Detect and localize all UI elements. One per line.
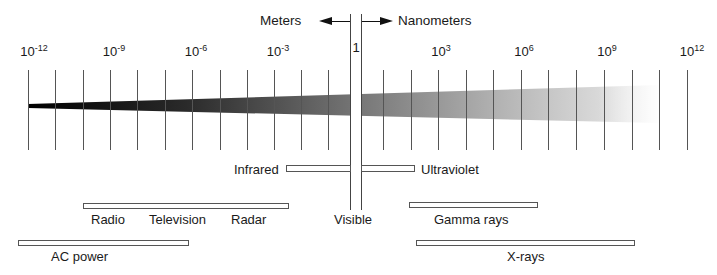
tick <box>274 70 275 150</box>
ultraviolet-label: Ultraviolet <box>421 163 479 176</box>
tick-label: 10-12 <box>20 44 47 58</box>
tick-label: 1 <box>352 41 359 54</box>
tick <box>548 70 549 150</box>
tick <box>687 70 688 150</box>
x-rays-label: X-rays <box>507 250 545 263</box>
tick <box>247 70 248 150</box>
center-gap <box>351 60 361 210</box>
center-line-right <box>361 14 362 210</box>
tick <box>83 70 84 150</box>
ultraviolet-bar <box>361 165 415 172</box>
tick <box>192 70 193 150</box>
tick <box>220 70 221 150</box>
tick <box>28 70 29 150</box>
visible-label: Visible <box>334 213 372 226</box>
tick <box>328 70 329 150</box>
nanometers-label: Nanometers <box>398 14 472 28</box>
tick-label: 106 <box>514 44 533 58</box>
tick-label: 1012 <box>680 44 704 58</box>
radar-label: Radar <box>231 213 266 226</box>
nanometers-arrow-line <box>362 21 381 22</box>
tick-label: 109 <box>597 44 616 58</box>
tick <box>521 70 522 150</box>
tick <box>110 70 111 150</box>
tick <box>165 70 166 150</box>
center-line-left <box>350 14 351 210</box>
gamma-rays-label: Gamma rays <box>434 213 508 226</box>
meters-arrow-line <box>331 21 350 22</box>
tick-label: 10-3 <box>267 44 289 58</box>
tick <box>411 70 412 150</box>
tick-label: 10-6 <box>185 44 207 58</box>
arrow-right-icon <box>380 17 393 25</box>
tick <box>301 70 302 150</box>
tick <box>632 70 633 150</box>
infrared-bar <box>286 165 351 172</box>
tick <box>604 70 605 150</box>
gamma-rays-bar <box>409 202 538 208</box>
tick-label: 103 <box>431 44 450 58</box>
television-label: Television <box>149 213 206 226</box>
spectrum-diagram: Meters Nanometers 10-12 10-9 10-6 10-3 1… <box>0 0 717 275</box>
tick <box>576 70 577 150</box>
arrow-left-icon <box>319 17 332 25</box>
tick <box>466 70 467 150</box>
tick <box>438 70 439 150</box>
radio-tv-radar-bar <box>83 203 289 209</box>
radio-label: Radio <box>91 213 125 226</box>
ac-power-label: AC power <box>51 250 108 263</box>
tick <box>55 70 56 150</box>
tick <box>493 70 494 150</box>
meters-label: Meters <box>260 14 301 28</box>
tick <box>383 70 384 150</box>
tick <box>659 70 660 150</box>
ac-power-bar <box>18 240 189 246</box>
infrared-label: Infrared <box>234 163 279 176</box>
x-rays-bar <box>416 240 635 246</box>
tick <box>137 70 138 150</box>
tick-label: 10-9 <box>103 44 125 58</box>
